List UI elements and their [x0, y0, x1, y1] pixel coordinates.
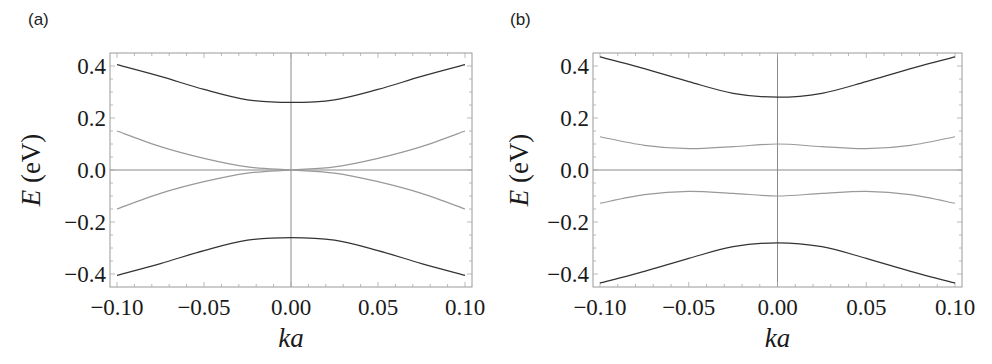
x-tick-label: 0.00 [757, 295, 797, 320]
panel-b: (b) −0.10−0.050.000.050.100.40.20.0−0.2−… [496, 0, 992, 364]
y-axis-title: E (eV) [504, 134, 534, 208]
y-tick-label: 0.0 [77, 158, 106, 183]
x-tick-label: 0.10 [445, 295, 485, 320]
panel-a: (a) −0.10−0.050.000.050.100.40.20.0−0.2−… [0, 0, 496, 364]
x-axis-title: ka [278, 323, 303, 353]
x-tick-label: 0.05 [358, 295, 398, 320]
x-tick-label: −0.10 [573, 295, 626, 320]
x-tick-label: −0.10 [90, 295, 143, 320]
x-axis-title: ka [765, 323, 790, 353]
y-tick-label: 0.0 [560, 158, 589, 183]
x-tick-label: −0.05 [662, 295, 715, 320]
y-tick-label: 0.4 [77, 54, 106, 79]
band-structure-plot-a: −0.10−0.050.000.050.100.40.20.0−0.2−0.4k… [0, 0, 496, 364]
band-structure-plot-b: −0.10−0.050.000.050.100.40.20.0−0.2−0.4k… [496, 0, 992, 364]
y-tick-label: −0.2 [547, 210, 589, 235]
y-axis-title: E (eV) [16, 134, 46, 208]
y-tick-label: −0.4 [64, 262, 106, 287]
y-tick-label: 0.2 [560, 106, 589, 131]
x-tick-label: −0.05 [177, 295, 230, 320]
x-tick-label: 0.00 [271, 295, 311, 320]
x-tick-label: 0.10 [935, 295, 975, 320]
x-tick-label: 0.05 [846, 295, 886, 320]
y-tick-label: 0.4 [560, 54, 589, 79]
y-tick-label: −0.2 [64, 210, 106, 235]
y-tick-label: −0.4 [547, 262, 589, 287]
y-tick-label: 0.2 [77, 106, 106, 131]
